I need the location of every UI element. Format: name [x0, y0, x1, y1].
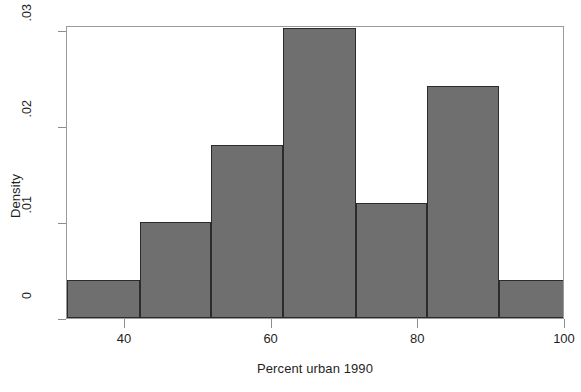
histogram-bar: [211, 145, 284, 318]
plot-frame: [66, 26, 564, 319]
histogram-bar: [499, 280, 563, 318]
x-tick-label: 40: [94, 331, 154, 346]
histogram-bar: [67, 280, 140, 318]
histogram-bar: [140, 222, 211, 318]
y-tick-label: 0: [0, 312, 54, 326]
histogram-bar: [283, 28, 356, 318]
x-axis-title: Percent urban 1990: [66, 361, 564, 376]
histogram-bar: [427, 86, 499, 318]
x-tick-label: 100: [534, 331, 581, 346]
y-tick-mark: [58, 223, 66, 224]
y-tick-mark: [58, 31, 66, 32]
y-tick-mark: [58, 127, 66, 128]
x-tick-mark: [564, 319, 565, 328]
y-tick-label: .02: [0, 120, 54, 134]
x-tick-mark: [124, 319, 125, 328]
x-tick-mark: [271, 319, 272, 328]
y-tick-label: .01: [0, 216, 54, 230]
y-tick-mark: [58, 319, 66, 320]
x-tick-label: 60: [241, 331, 301, 346]
x-tick-mark: [417, 319, 418, 328]
y-tick-label: .03: [0, 24, 54, 38]
histogram-bar: [356, 203, 427, 318]
plot-area: [67, 27, 563, 318]
x-tick-label: 80: [387, 331, 447, 346]
histogram-chart: Density 0.01.02.03 406080100 Percent urb…: [0, 0, 581, 392]
